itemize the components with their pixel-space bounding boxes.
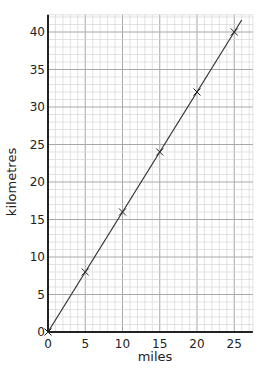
y-tick-label: 35 bbox=[30, 63, 45, 77]
grid bbox=[48, 15, 253, 332]
x-tick-label: 10 bbox=[115, 337, 130, 351]
y-tick-label: 20 bbox=[30, 175, 45, 189]
y-axis-label: kilometres bbox=[4, 148, 19, 217]
x-tick-label: 5 bbox=[81, 337, 89, 351]
y-tick-label: 0 bbox=[37, 325, 45, 339]
conversion-graph: 05101520250510152025303540 miles kilomet… bbox=[0, 0, 270, 380]
y-tick-label: 10 bbox=[30, 250, 45, 264]
x-tick-label: 25 bbox=[227, 337, 242, 351]
y-tick-label: 40 bbox=[30, 25, 45, 39]
y-tick-label: 15 bbox=[30, 213, 45, 227]
y-tick-label: 25 bbox=[30, 138, 45, 152]
x-tick-label: 0 bbox=[44, 337, 52, 351]
x-axis-label: miles bbox=[138, 349, 173, 364]
y-tick-label: 30 bbox=[30, 100, 45, 114]
x-tick-label: 20 bbox=[189, 337, 204, 351]
y-tick-label: 5 bbox=[37, 288, 45, 302]
